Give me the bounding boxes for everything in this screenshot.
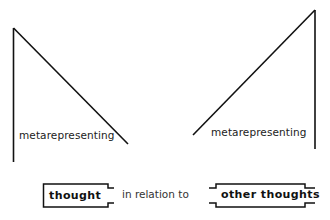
thought-box-label: thought [49,189,101,202]
diagram-lines [0,0,330,220]
other-thoughts-box-label: other thoughts [221,188,320,201]
left-metarepresenting-label: metarepresenting [19,129,115,141]
right-diagonal-line [193,10,315,135]
right-metarepresenting-label: metarepresenting [211,126,307,138]
left-diagonal-line [14,28,129,144]
left-figure [14,28,129,162]
in-relation-to-label: in relation to [122,188,189,200]
